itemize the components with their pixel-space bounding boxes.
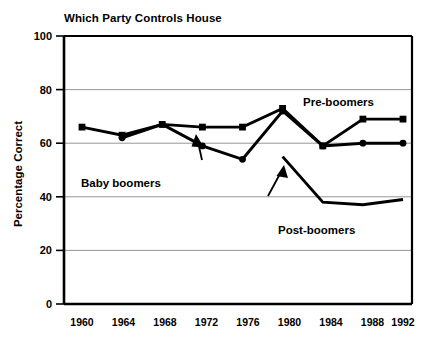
post-boomers-arrowhead-icon [277,165,289,178]
y-tick-label: 40 [40,191,52,203]
x-tick-label: 1992 [391,316,415,328]
data-point-circle [159,121,166,128]
data-point-square [360,116,367,123]
x-tick-label: 1984 [319,316,343,328]
plot-area: 100 80 60 40 20 0 1960 1964 1968 1972 19… [0,0,436,344]
x-tick-label: 1968 [153,316,177,328]
y-tick-label: 100 [34,30,52,42]
y-tick-labels: 100 80 60 40 20 0 [34,30,52,310]
gridlines [64,90,412,251]
y-tick-label: 0 [46,298,52,310]
series-post-boomers [283,157,403,205]
y-tick-label: 60 [40,137,52,149]
x-tick-label: 1988 [361,316,385,328]
annotation-baby-boomers: Baby boomers [81,177,161,189]
data-series-layer [79,105,407,205]
data-point-circle [400,140,407,147]
y-tick-label: 80 [40,84,52,96]
data-point-square [199,124,206,131]
annotation-labels: Pre-boomers Baby boomers Post-boomers [81,96,374,236]
data-point-circle [360,140,367,147]
x-tick-labels: 1960 1964 1968 1972 1976 1980 1984 1988 … [70,316,415,328]
series-line [283,157,403,205]
annotation-pre-boomers: Pre-boomers [303,96,374,108]
data-point-circle [319,143,326,150]
x-tick-label: 1960 [70,316,94,328]
data-point-circle [279,108,286,115]
axis-frame [64,36,412,304]
annotation-post-boomers: Post-boomers [278,224,355,236]
x-tick-label: 1972 [195,316,219,328]
data-point-circle [239,156,246,163]
data-point-square [239,124,246,131]
x-tick-label: 1980 [278,316,302,328]
data-point-square [400,116,407,123]
chart-figure: Which Party Controls House Percentage Co… [0,0,436,344]
y-tick-label: 20 [40,244,52,256]
data-point-circle [119,134,126,141]
data-point-square [79,124,86,131]
x-tick-label: 1964 [112,316,136,328]
x-tick-label: 1976 [236,316,260,328]
